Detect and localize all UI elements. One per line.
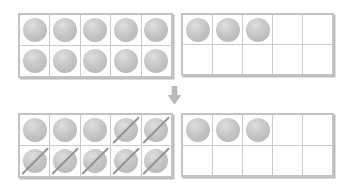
ten-frame-cell xyxy=(50,146,79,176)
counter-icon xyxy=(83,118,107,142)
ten-frame-bottom-right xyxy=(181,113,334,177)
ten-frame-cell xyxy=(303,15,332,44)
ten-frame-cell xyxy=(111,146,140,176)
ten-frame-cell xyxy=(273,115,302,145)
ten-frame-cell xyxy=(213,15,242,44)
ten-frame-cell xyxy=(273,45,302,74)
ten-frame-cell xyxy=(111,115,140,145)
ten-frame-cell xyxy=(243,115,272,145)
ten-frame-cell xyxy=(303,115,332,145)
ten-frame-cell xyxy=(142,15,171,45)
counter-icon xyxy=(186,18,210,42)
counter-icon xyxy=(83,18,107,42)
ten-frame-cell xyxy=(81,46,110,76)
counter-icon xyxy=(144,18,168,42)
counter-icon xyxy=(144,149,168,173)
counter-icon xyxy=(23,18,47,42)
counter-icon xyxy=(114,18,138,42)
ten-frame-cell xyxy=(20,146,49,176)
ten-frame-cell xyxy=(243,15,272,44)
ten-frame-subtraction-diagram xyxy=(0,0,345,192)
ten-frame-top-left xyxy=(18,13,173,78)
ten-frame-cell xyxy=(183,45,212,74)
ten-frame-cell xyxy=(111,15,140,45)
counter-icon xyxy=(114,49,138,73)
ten-frame-cell xyxy=(243,45,272,74)
ten-frame-top-right xyxy=(181,13,334,76)
ten-frame-cell xyxy=(183,115,212,145)
ten-frame-cell xyxy=(303,146,332,176)
counter-icon xyxy=(216,118,240,142)
counter-icon xyxy=(186,118,210,142)
ten-frame-cell xyxy=(243,146,272,176)
ten-frame-cell xyxy=(50,15,79,45)
counter-icon xyxy=(53,18,77,42)
counter-icon xyxy=(246,18,270,42)
ten-frame-cell xyxy=(20,15,49,45)
counter-icon xyxy=(114,118,138,142)
ten-frame-cell xyxy=(81,115,110,145)
ten-frame-cell xyxy=(213,45,242,74)
counter-icon xyxy=(144,118,168,142)
ten-frame-cell xyxy=(111,46,140,76)
counter-icon xyxy=(216,18,240,42)
ten-frame-cell xyxy=(20,46,49,76)
ten-frame-cell xyxy=(303,45,332,74)
counter-icon xyxy=(53,118,77,142)
ten-frame-cell xyxy=(20,115,49,145)
ten-frame-cell xyxy=(142,146,171,176)
ten-frame-cell xyxy=(81,15,110,45)
ten-frame-cell xyxy=(142,46,171,76)
ten-frame-cell xyxy=(273,146,302,176)
ten-frame-cell xyxy=(81,146,110,176)
counter-icon xyxy=(53,49,77,73)
counter-icon xyxy=(83,149,107,173)
ten-frame-bottom-left xyxy=(18,113,173,178)
down-arrow-icon xyxy=(167,86,182,105)
counter-icon xyxy=(144,49,168,73)
counter-icon xyxy=(23,149,47,173)
ten-frame-cell xyxy=(50,46,79,76)
counter-icon xyxy=(114,149,138,173)
ten-frame-cell xyxy=(213,115,242,145)
ten-frame-cell xyxy=(273,15,302,44)
counter-icon xyxy=(83,49,107,73)
ten-frame-cell xyxy=(213,146,242,176)
ten-frame-cell xyxy=(50,115,79,145)
ten-frame-cell xyxy=(183,15,212,44)
counter-icon xyxy=(23,118,47,142)
ten-frame-cell xyxy=(183,146,212,176)
counter-icon xyxy=(53,149,77,173)
counter-icon xyxy=(23,49,47,73)
ten-frame-cell xyxy=(142,115,171,145)
counter-icon xyxy=(246,118,270,142)
